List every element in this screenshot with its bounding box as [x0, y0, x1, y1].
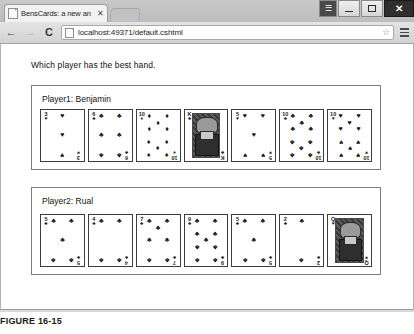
- card-suit-icon: ♣: [75, 255, 82, 260]
- card-corner-index: 10♣: [315, 150, 322, 160]
- menu-line: [400, 35, 409, 37]
- card-pip-clubs: ♣: [99, 152, 104, 158]
- card-pip-clubs: ♣: [213, 231, 218, 237]
- card-pip-diamonds: ♦: [156, 145, 160, 151]
- court-card-art-band: [200, 131, 214, 140]
- url-text: localhost:49371/default.cshtml: [78, 28, 183, 37]
- card-corner-index: 2♣: [315, 255, 322, 265]
- playing-card[interactable]: 10♦10♦♦♦♦♦♦♦♦♦♦♦: [136, 109, 181, 162]
- close-window-button[interactable]: ✕: [384, 0, 414, 17]
- card-pip-clubs: ♣: [165, 257, 170, 263]
- card-pip-diamonds: ♦: [147, 152, 151, 158]
- bookmark-star-icon[interactable]: ☆: [382, 28, 390, 37]
- card-suit-icon: ♣: [315, 255, 322, 260]
- card-pip-clubs: ♣: [99, 257, 104, 263]
- tab-title: BensCards: a new an: [21, 9, 95, 18]
- card-pip-diamonds: ♦: [156, 120, 160, 126]
- card-suit-icon: ♣: [123, 150, 130, 155]
- card-corner-index: 3♥: [75, 150, 82, 160]
- forward-button[interactable]: →: [22, 25, 38, 41]
- playing-card[interactable]: 4♣4♣♣♣♣♣: [88, 214, 133, 267]
- card-pip-clubs: ♣: [147, 257, 152, 263]
- card-pip-clubs: ♣: [51, 257, 56, 263]
- card-pip-hearts: ♥: [261, 113, 265, 119]
- card-pip-grid: ♣♣♣♣♣: [240, 218, 267, 263]
- playing-card[interactable]: 5♣5♣♣♣♣♣♣: [40, 214, 85, 267]
- card-pip-clubs: ♣: [261, 257, 266, 263]
- card-pip-hearts: ♥: [356, 113, 360, 119]
- card-pip-clubs: ♣: [69, 218, 74, 224]
- card-pip-diamonds: ♦: [165, 152, 169, 158]
- card-pip-grid: ♣♣♣♣♣♣♣♣♣♣: [288, 113, 315, 158]
- player-label: Player2: Rual: [42, 196, 93, 206]
- card-corner-index: 6♣: [123, 150, 130, 160]
- card-pip-hearts: ♥: [339, 139, 343, 145]
- playing-card[interactable]: 2♣2♣♣♣: [279, 214, 324, 267]
- playing-card[interactable]: Q♥Q♥: [327, 214, 372, 267]
- card-pip-diamonds: ♦: [147, 139, 151, 145]
- card-pip-hearts: ♥: [261, 152, 265, 158]
- card-pip-clubs: ♣: [117, 257, 122, 263]
- question-text: Which player has the best hand.: [31, 60, 156, 70]
- card-pip-hearts: ♥: [356, 126, 360, 132]
- card-pip-grid: ♣♣: [288, 218, 315, 263]
- address-bar[interactable]: localhost:49371/default.cshtml ☆: [61, 25, 394, 40]
- card-suit-icon: ♣: [123, 255, 130, 260]
- card-pip-clubs: ♣: [165, 237, 170, 243]
- card-pip-clubs: ♣: [213, 244, 218, 250]
- reload-button[interactable]: C: [41, 25, 57, 41]
- card-pip-clubs: ♣: [299, 257, 304, 263]
- card-pip-clubs: ♣: [147, 218, 152, 224]
- card-pip-clubs: ♣: [195, 218, 200, 224]
- card-pip-clubs: ♣: [308, 113, 313, 119]
- card-pip-clubs: ♣: [204, 237, 209, 243]
- user-profile-button[interactable]: ☰: [319, 0, 337, 17]
- card-pip-hearts: ♥: [339, 152, 343, 158]
- browser-tab[interactable]: BensCards: a new an ✕: [4, 4, 108, 22]
- close-tab-icon[interactable]: ✕: [97, 10, 104, 18]
- back-button[interactable]: ←: [3, 25, 19, 41]
- card-pip-clubs: ♣: [308, 126, 313, 132]
- card-corner-index: 4♣: [123, 255, 130, 265]
- playing-card[interactable]: 7♣7♣♣♣♣♣♣♣♣: [136, 214, 181, 267]
- card-pip-diamonds: ♦: [165, 139, 169, 145]
- card-pip-clubs: ♣: [69, 257, 74, 263]
- card-pip-diamonds: ♦: [165, 126, 169, 132]
- card-pip-clubs: ♣: [117, 132, 122, 138]
- player-hand: 5♣5♣♣♣♣♣♣4♣4♣♣♣♣♣7♣7♣♣♣♣♣♣♣♣9♣9♣♣♣♣♣♣♣♣♣…: [40, 214, 372, 267]
- card-pip-hearts: ♥: [60, 132, 64, 138]
- player-panel: Player1: Benjamin 3♥3♥♥♥♥6♣6♣♣♣♣♣♣♣10♦10…: [31, 85, 381, 170]
- card-pip-diamonds: ♦: [147, 113, 151, 119]
- minimize-icon: [345, 11, 353, 12]
- playing-card[interactable]: 6♣6♣♣♣♣♣♣♣: [88, 109, 133, 162]
- playing-card[interactable]: 10♣10♣♣♣♣♣♣♣♣♣♣♣: [279, 109, 324, 162]
- card-pip-clubs: ♣: [290, 126, 295, 132]
- playing-card[interactable]: 9♣9♣♣♣♣♣♣♣♣♣♣: [184, 214, 229, 267]
- card-pip-hearts: ♥: [252, 132, 256, 138]
- playing-card[interactable]: 3♥3♥♥♥♥: [40, 109, 85, 162]
- minimize-button[interactable]: [338, 0, 360, 17]
- playing-card[interactable]: 10♥10♥♥♥♥♥♥♥♥♥♥♥: [327, 109, 372, 162]
- card-pip-clubs: ♣: [117, 218, 122, 224]
- card-pip-grid: ♣♣♣♣♣♣♣: [145, 218, 172, 263]
- card-pip-clubs: ♣: [117, 152, 122, 158]
- chrome-menu-button[interactable]: [397, 25, 411, 41]
- playing-card[interactable]: 5♥5♥♥♥♥♥♥: [231, 109, 276, 162]
- card-suit-icon: ♣: [219, 255, 226, 260]
- playing-card[interactable]: 5♣5♣♣♣♣♣♣: [231, 214, 276, 267]
- card-suit-icon: ♥: [75, 150, 82, 155]
- new-tab-button[interactable]: [109, 8, 141, 23]
- window-controls: ☰ ✕: [318, 0, 414, 18]
- maximize-button[interactable]: [361, 0, 383, 17]
- card-suit-icon: ♥: [267, 150, 274, 155]
- card-pip-clubs: ♣: [243, 257, 248, 263]
- card-pip-hearts: ♥: [60, 152, 64, 158]
- playing-card[interactable]: K♣K♣: [184, 109, 229, 162]
- card-pip-clubs: ♣: [299, 145, 304, 151]
- court-card-art: [335, 218, 364, 263]
- card-corner-index: 5♥: [267, 150, 274, 160]
- card-pip-grid: ♣♣♣♣♣♣♣♣♣: [193, 218, 220, 263]
- card-pip-clubs: ♣: [290, 152, 295, 158]
- card-pip-hearts: ♥: [339, 126, 343, 132]
- browser-window: BensCards: a new an ✕ ☰ ✕ ← → C localhos…: [0, 0, 414, 312]
